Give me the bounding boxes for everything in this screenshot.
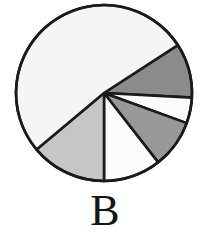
pie-chart-svg [0,0,210,200]
figure-label: B [0,186,210,236]
pie-chart-figure: B [0,0,210,241]
